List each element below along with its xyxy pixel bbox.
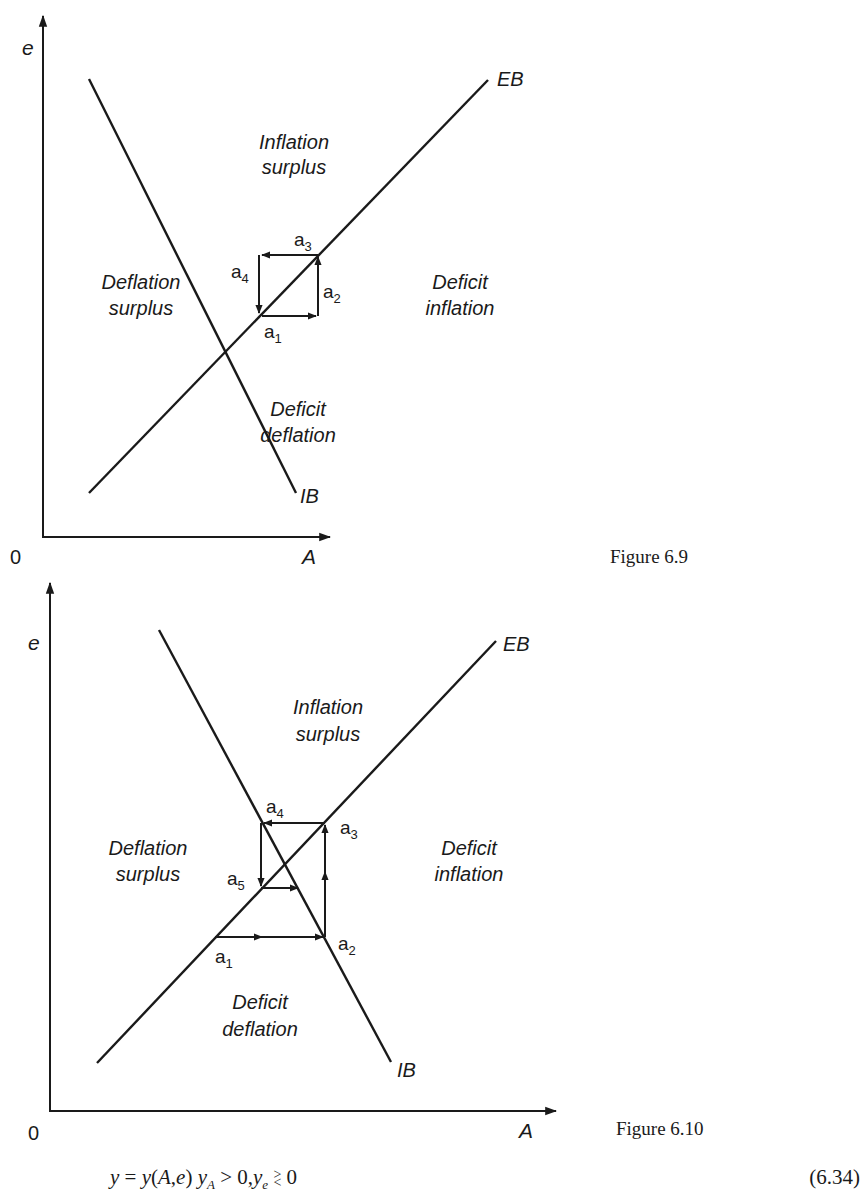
region-inflation-surplus: Inflation surplus — [293, 696, 363, 745]
y-axis-label: e — [22, 36, 34, 59]
region-deficit-deflation: Deficit deflation — [260, 398, 336, 446]
svg-text:inflation: inflation — [435, 863, 504, 885]
eq-arg-a: A — [158, 1165, 171, 1189]
region-inflation-surplus: Inflation surplus — [259, 131, 329, 178]
region-deficit-inflation: Deficit inflation — [426, 271, 495, 319]
svg-text:Inflation: Inflation — [259, 131, 329, 153]
svg-text:Inflation: Inflation — [293, 696, 363, 718]
svg-text:Deficit: Deficit — [270, 398, 327, 420]
svg-text:surplus: surplus — [109, 297, 173, 319]
eq-cond2-var: y — [253, 1165, 262, 1189]
eb-label: EB — [497, 68, 524, 90]
eq-cond2-sub: e — [262, 1177, 268, 1192]
figures-canvas: e A 0 EB IB a1 a2 a3 a4 Inflation surplu… — [0, 0, 866, 1201]
equation-6-34: y = y(A,e) yA > 0,ye >< 0 — [110, 1165, 297, 1193]
region-deficit-inflation: Deficit inflation — [435, 837, 504, 885]
svg-text:Deficit: Deficit — [432, 271, 489, 293]
svg-text:Deflation: Deflation — [102, 271, 181, 293]
figure-6-10-caption: Figure 6.10 — [616, 1118, 704, 1140]
equation-number: (6.34) — [809, 1165, 860, 1190]
figure-6-9: e A 0 EB IB a1 a2 a3 a4 Inflation surplu… — [10, 16, 524, 568]
svg-text:deflation: deflation — [222, 1018, 298, 1040]
x-axis-label: A — [300, 545, 316, 568]
eq-fn: y — [142, 1165, 151, 1189]
eq-paren-close: ) — [185, 1165, 192, 1189]
y-axis-label: e — [28, 631, 40, 654]
figure-6-9-caption: Figure 6.9 — [610, 546, 688, 568]
eq-cond2-rhs: 0 — [281, 1165, 297, 1189]
eq-lhs: y — [110, 1165, 119, 1189]
point-a1: a1 — [215, 946, 233, 971]
point-a4: a4 — [231, 261, 249, 286]
origin-label: 0 — [28, 1122, 39, 1144]
origin-label: 0 — [10, 546, 21, 568]
figure-6-10: e A 0 EB IB a1 a2 a3 a4 a5 Inflation sur… — [28, 583, 556, 1144]
x-axis-label: A — [517, 1119, 533, 1142]
eq-equals: = — [119, 1165, 141, 1189]
svg-text:Deflation: Deflation — [109, 837, 188, 859]
region-deflation-surplus: Deflation surplus — [102, 271, 181, 319]
point-a5: a5 — [227, 868, 245, 893]
svg-text:surplus: surplus — [262, 156, 326, 178]
eq-arg-e: e — [176, 1165, 185, 1189]
point-a4: a4 — [266, 796, 284, 821]
region-deficit-deflation: Deficit deflation — [222, 991, 298, 1040]
eq-paren-open: ( — [151, 1165, 158, 1189]
point-a3: a3 — [294, 229, 312, 254]
ib-label: IB — [397, 1059, 416, 1081]
eq-cond1-var: y — [198, 1165, 207, 1189]
eb-label: EB — [503, 633, 530, 655]
point-a3: a3 — [340, 817, 358, 842]
svg-text:surplus: surplus — [296, 723, 360, 745]
svg-text:surplus: surplus — [116, 863, 180, 885]
region-deflation-surplus: Deflation surplus — [109, 837, 188, 885]
ib-label: IB — [300, 485, 319, 507]
eq-cond1-rel: > 0, — [215, 1165, 253, 1189]
point-a1: a1 — [264, 321, 282, 346]
point-a2: a2 — [338, 933, 356, 958]
point-a2: a2 — [323, 281, 341, 306]
eq-cond1-sub: A — [207, 1177, 215, 1192]
svg-text:Deficit: Deficit — [232, 991, 289, 1013]
svg-text:inflation: inflation — [426, 297, 495, 319]
svg-text:Deficit: Deficit — [441, 837, 498, 859]
svg-text:deflation: deflation — [260, 424, 336, 446]
